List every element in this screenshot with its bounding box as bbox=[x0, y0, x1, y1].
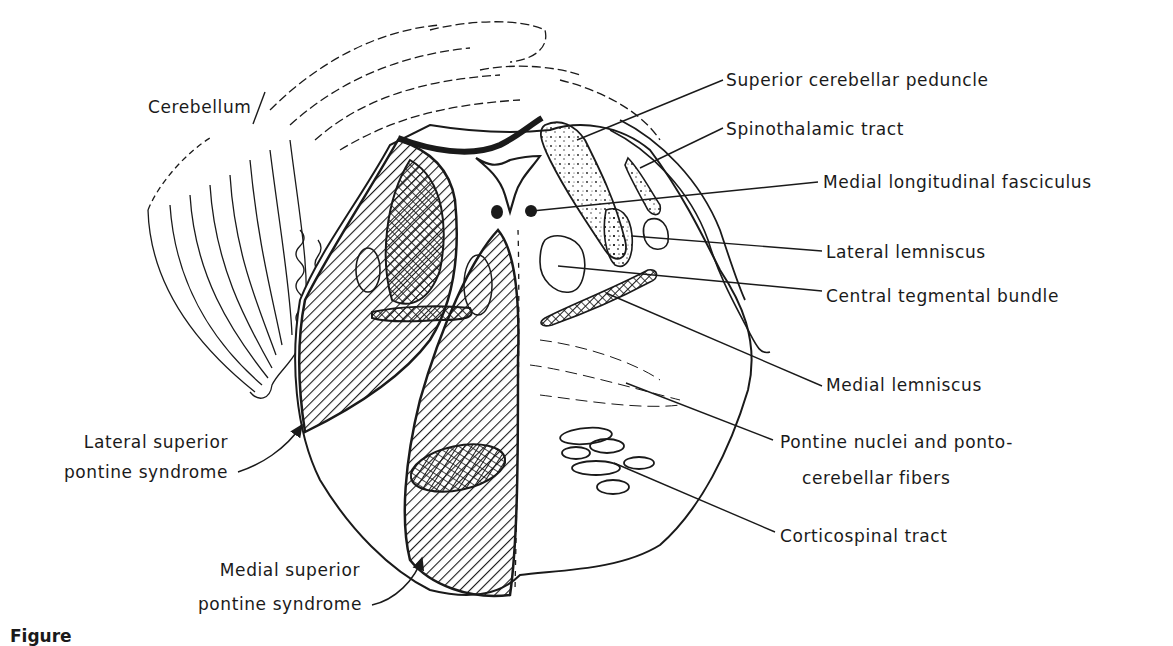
label-pontine-nuclei-line2: cerebellar fibers bbox=[802, 468, 950, 488]
label-lateral-lemniscus: Lateral lemniscus bbox=[826, 242, 986, 262]
label-lateral-syndrome-line1: Lateral superior bbox=[30, 432, 228, 452]
label-lateral-syndrome-line2: pontine syndrome bbox=[30, 462, 228, 482]
figure-caption-fragment: Figure bbox=[10, 626, 72, 646]
label-corticospinal-tract: Corticospinal tract bbox=[780, 526, 948, 546]
label-medial-longitudinal-fasciculus: Medial longitudinal fasciculus bbox=[823, 172, 1092, 192]
lateral-syndrome-arrow bbox=[238, 425, 302, 472]
label-medial-syndrome-line2: pontine syndrome bbox=[150, 594, 362, 614]
label-central-tegmental-bundle: Central tegmental bundle bbox=[826, 286, 1059, 306]
mlf-left bbox=[491, 205, 503, 219]
label-pontine-nuclei-line1: Pontine nuclei and ponto- bbox=[780, 432, 1013, 452]
label-medial-lemniscus: Medial lemniscus bbox=[826, 375, 982, 395]
label-superior-cerebellar-peduncle: Superior cerebellar peduncle bbox=[726, 70, 989, 90]
label-cerebellum: Cerebellum bbox=[148, 97, 251, 117]
label-spinothalamic-tract: Spinothalamic tract bbox=[726, 119, 904, 139]
label-medial-syndrome-line1: Medial superior bbox=[170, 560, 360, 580]
